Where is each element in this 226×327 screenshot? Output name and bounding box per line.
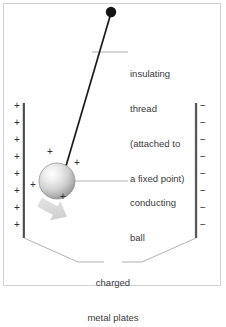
- label-charged-plates-line2: metal plates: [87, 312, 138, 324]
- left-plate-charge-sign: +: [12, 135, 22, 145]
- right-plate-charge-sign: −: [198, 203, 208, 213]
- ball-charge-sign: +: [72, 158, 82, 168]
- right-plate-charge-sign: −: [198, 118, 208, 128]
- label-insulating-thread-line3: (attached to: [130, 138, 184, 150]
- label-charged-metal-plates: charged metal plates: [87, 254, 138, 327]
- conducting-ball-shape: [39, 163, 75, 199]
- label-conducting-ball: conducting ball: [130, 174, 176, 267]
- right-plate-charge-sign: −: [198, 152, 208, 162]
- right-plate-charge-sign: −: [198, 135, 208, 145]
- left-plate-charge-sign: +: [12, 203, 22, 213]
- label-conducting-ball-line2: ball: [130, 232, 176, 244]
- right-plate-charge-sign: −: [198, 101, 208, 111]
- ball-charge-sign: +: [45, 147, 55, 157]
- label-insulating-thread-line2: thread: [130, 103, 184, 115]
- right-charged-plate: [195, 103, 197, 238]
- left-plate-charge-sign: +: [12, 152, 22, 162]
- right-plate-charge-sign: −: [198, 220, 208, 230]
- left-plate-charge-sign: +: [12, 220, 22, 230]
- label-insulating-thread-line1: insulating: [130, 68, 184, 80]
- left-charged-plate: [23, 103, 25, 238]
- label-conducting-ball-line1: conducting: [130, 197, 176, 209]
- left-plate-charge-sign: +: [12, 186, 22, 196]
- insulating-thread-line: [66, 13, 111, 166]
- right-plate-charge-sign: −: [198, 169, 208, 179]
- left-plate-charge-sign: +: [12, 101, 22, 111]
- ball-charge-sign: +: [58, 192, 68, 202]
- right-plate-charge-sign: −: [198, 186, 208, 196]
- left-plate-charge-sign: +: [12, 169, 22, 179]
- ball-charge-sign: +: [28, 180, 38, 190]
- left-plate-charge-sign: +: [12, 118, 22, 128]
- label-charged-plates-line1: charged: [87, 277, 138, 289]
- fixed-pivot-point: [106, 7, 116, 17]
